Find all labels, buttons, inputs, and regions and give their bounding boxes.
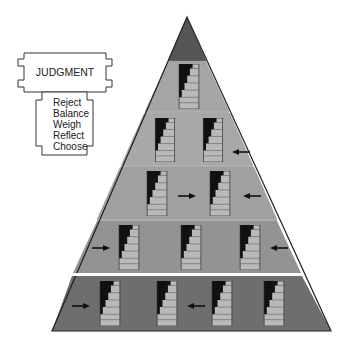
pyramid-diagram: JUDGMENT Reject Balance Weigh Reflect Ch… (0, 0, 349, 346)
judgment-item: Choose (53, 141, 88, 152)
staircase-icon (203, 118, 222, 162)
divider (72, 273, 302, 276)
staircase-icon (147, 171, 167, 216)
judgment-item: Reflect (53, 130, 84, 141)
staircase-icon (212, 281, 232, 326)
staircase-icon (181, 225, 201, 270)
judgment-item: Balance (53, 108, 90, 119)
staircase-icon (119, 225, 139, 270)
staircase-icon (179, 64, 199, 109)
staircase-icon (100, 281, 120, 326)
pyramid-tier-5 (52, 276, 331, 331)
staircase-icon (240, 225, 260, 270)
judgment-item: Reject (53, 97, 82, 108)
staircase-icon (264, 281, 284, 326)
staircase-icon (157, 281, 177, 326)
judgment-item: Weigh (53, 119, 81, 130)
pyramid-tier-2 (121, 113, 253, 165)
staircase-icon (155, 118, 174, 162)
pyramid-apex (168, 17, 206, 60)
staircase-icon (210, 171, 230, 216)
judgment-title: JUDGMENT (36, 66, 95, 78)
judgment-box: JUDGMENT Reject Balance Weigh Reflect Ch… (18, 53, 112, 155)
